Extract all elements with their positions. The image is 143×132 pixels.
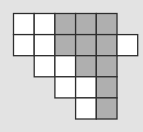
gray-square-r3-c4 <box>96 77 117 98</box>
gray-square-r2-c3 <box>76 56 97 77</box>
gray-square-r4-c4 <box>96 98 117 119</box>
gray-square-r0-c3 <box>76 14 97 35</box>
white-square-r1-c1 <box>34 35 55 56</box>
white-square-r1-c0 <box>14 35 35 56</box>
gray-square-r2-c4 <box>96 56 117 77</box>
white-square-r1-c5 <box>117 35 138 56</box>
white-square-r3-c2 <box>55 77 76 98</box>
square-grid-diagram <box>0 0 143 132</box>
gray-square-r0-c4 <box>96 14 117 35</box>
gray-square-r1-c3 <box>76 35 97 56</box>
gray-square-r1-c4 <box>96 35 117 56</box>
gray-square-r0-c2 <box>55 14 76 35</box>
gray-square-r1-c2 <box>55 35 76 56</box>
white-square-r0-c1 <box>34 14 55 35</box>
white-square-r2-c1 <box>34 56 55 77</box>
white-square-r4-c3 <box>76 98 97 119</box>
white-square-r0-c0 <box>14 14 35 35</box>
white-square-r3-c3 <box>76 77 97 98</box>
white-square-r2-c2 <box>55 56 76 77</box>
